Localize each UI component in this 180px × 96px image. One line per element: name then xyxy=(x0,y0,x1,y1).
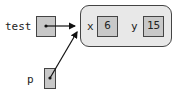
pointer-arrows xyxy=(0,0,180,96)
arrow-p xyxy=(50,32,77,78)
